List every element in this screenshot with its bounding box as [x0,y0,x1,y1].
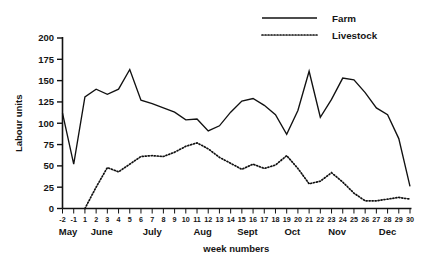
x-axis-tick-label: 2 [94,215,98,224]
x-axis-tick-label: 10 [182,215,190,224]
x-axis-tick-label: 24 [339,215,347,224]
x-axis-month-label: July [143,226,163,237]
x-axis-tick-label: 21 [305,215,313,224]
x-axis-tick-label: 9 [173,215,177,224]
x-axis-tick-label: 16 [249,215,257,224]
x-axis-tick-label: 22 [316,215,324,224]
x-axis-tick-label: -2 [59,215,65,224]
x-axis-tick-label: 6 [139,215,143,224]
chart-legend: FarmLivestock [262,13,378,41]
x-axis-tick-label: 5 [128,215,132,224]
x-axis-tick-label: 29 [395,215,403,224]
series-line-farm [63,70,411,187]
chart-series [63,70,411,209]
y-axis-tick-label: 50 [43,160,54,171]
x-axis-month-label: Dec [379,226,396,237]
x-axis-tick-label: 15 [238,215,246,224]
x-axis-month-label: Oct [284,226,301,237]
x-axis-tick-label: 8 [161,215,165,224]
legend-label-livestock: Livestock [332,30,378,41]
x-axis-tick-label: 7 [150,215,154,224]
y-axis-tick-label: 100 [38,118,54,129]
x-axis-tick-label: 20 [294,215,302,224]
x-axis-tick-label: 1 [83,215,87,224]
y-axis-tick-label: 25 [43,182,54,193]
x-axis-tick-label: 25 [350,215,358,224]
x-axis-tick-label: 30 [406,215,414,224]
y-axis-tick-label: 175 [38,54,55,65]
x-axis-month-label: May [59,226,78,237]
x-axis-tick-label: 13 [215,215,223,224]
x-axis-month-label: Sept [237,226,258,237]
y-axis-tick-label: 0 [49,203,54,214]
y-axis: 0255075100125150175200 [38,32,62,214]
x-axis-tick-label: 11 [193,215,201,224]
y-axis-tick-label: 150 [38,75,54,86]
x-axis-tick-label: 17 [260,215,268,224]
chart-container: FarmLivestock 0255075100125150175200 -2-… [0,0,435,260]
x-axis-month-label: Aug [193,226,212,237]
x-axis-tick-label: 4 [117,215,121,224]
y-axis-tick-label: 200 [38,32,54,43]
y-axis-title: Labour units [13,95,24,153]
y-axis-tick-label: 75 [43,139,54,150]
x-axis-tick-label: 27 [372,215,380,224]
x-axis-tick-label: 19 [283,215,291,224]
line-chart: FarmLivestock 0255075100125150175200 -2-… [0,0,435,260]
x-axis-tick-label: 18 [271,215,279,224]
x-axis-tick-label: 3 [105,215,109,224]
x-axis-title: week numbers [202,243,269,254]
x-axis-tick-label: 28 [384,215,392,224]
x-axis-tick-label: 12 [204,215,212,224]
x-axis-tick-label: 26 [361,215,369,224]
x-axis-tick-label: 23 [328,215,336,224]
x-axis-month-label: June [91,226,113,237]
x-axis-tick-label: 14 [227,215,235,224]
y-axis-tick-label: 125 [38,96,55,107]
series-line-livestock [85,143,410,209]
x-axis: -2-1123456789101112131415161718192021222… [59,209,414,238]
legend-label-farm: Farm [332,13,356,24]
x-axis-month-label: Nov [328,226,347,237]
x-axis-tick-label: -1 [71,215,77,224]
